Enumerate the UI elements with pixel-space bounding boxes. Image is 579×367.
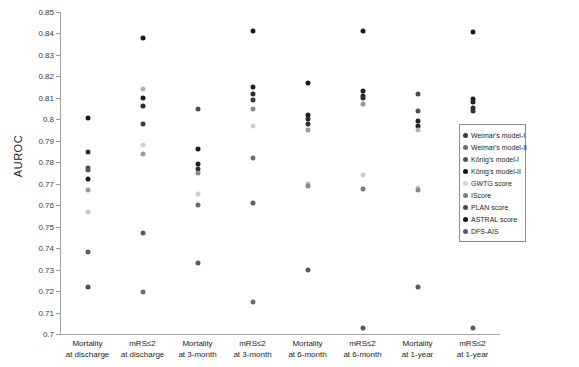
y-tick-mark bbox=[56, 291, 60, 292]
legend-marker-icon bbox=[463, 169, 468, 174]
data-point bbox=[195, 192, 200, 197]
legend-marker-icon bbox=[463, 229, 468, 234]
y-tick-label: 0.81 bbox=[24, 93, 54, 102]
data-point bbox=[85, 116, 90, 121]
legend-label: Weimar's model-I bbox=[471, 131, 525, 140]
data-point bbox=[305, 267, 310, 272]
y-tick-mark bbox=[56, 184, 60, 185]
data-point bbox=[250, 201, 255, 206]
data-point bbox=[415, 188, 420, 193]
data-point bbox=[360, 102, 365, 107]
y-tick-label: 0.77 bbox=[24, 179, 54, 188]
data-point bbox=[305, 121, 310, 126]
data-point bbox=[195, 261, 200, 266]
data-point bbox=[140, 35, 145, 40]
legend-label: PLAN score bbox=[471, 203, 508, 212]
legend-label: König's model-I bbox=[471, 155, 519, 164]
legend-marker-icon bbox=[463, 205, 468, 210]
y-tick-mark bbox=[56, 141, 60, 142]
x-tick-label: mRS≤2at 1-year bbox=[433, 338, 513, 360]
data-point bbox=[470, 325, 475, 330]
y-tick-label: 0.8 bbox=[24, 115, 54, 124]
data-point bbox=[415, 128, 420, 133]
x-axis-tick-labels: Mortalityat dischargemRS≤2at dischargeMo… bbox=[60, 338, 500, 366]
data-point bbox=[470, 108, 475, 113]
y-tick-mark bbox=[56, 55, 60, 56]
data-point bbox=[85, 149, 90, 154]
y-tick-label: 0.75 bbox=[24, 222, 54, 231]
y-tick-mark bbox=[56, 119, 60, 120]
x-tick-label-line: at 1-year bbox=[433, 349, 513, 360]
legend-item[interactable]: König's model-II bbox=[463, 165, 522, 177]
y-tick-mark bbox=[56, 227, 60, 228]
data-point bbox=[140, 290, 145, 295]
legend-item[interactable]: GWTG score bbox=[463, 177, 522, 189]
data-point bbox=[85, 284, 90, 289]
legend-marker-icon bbox=[463, 181, 468, 186]
y-tick-label: 0.84 bbox=[24, 29, 54, 38]
plot-area bbox=[60, 12, 434, 334]
data-point bbox=[195, 203, 200, 208]
data-point bbox=[470, 100, 475, 105]
legend-label: GWTG score bbox=[471, 179, 512, 188]
data-point bbox=[360, 173, 365, 178]
data-point bbox=[140, 104, 145, 109]
data-point bbox=[470, 30, 475, 35]
legend-item[interactable]: DFS-AIS bbox=[463, 225, 522, 237]
data-point bbox=[250, 123, 255, 128]
data-point bbox=[250, 29, 255, 34]
data-point bbox=[85, 167, 90, 172]
y-tick-mark bbox=[56, 270, 60, 271]
data-point bbox=[305, 183, 310, 188]
legend-label: König's model-II bbox=[471, 167, 521, 176]
legend-item[interactable]: Weimar's model-II bbox=[463, 141, 522, 153]
data-point bbox=[305, 80, 310, 85]
data-point bbox=[250, 91, 255, 96]
data-point bbox=[250, 85, 255, 90]
legend-item[interactable]: König's model-I bbox=[463, 153, 522, 165]
y-tick-label: 0.82 bbox=[24, 72, 54, 81]
data-point bbox=[250, 106, 255, 111]
legend-marker-icon bbox=[463, 133, 468, 138]
data-point bbox=[195, 106, 200, 111]
legend-item[interactable]: ASTRAL score bbox=[463, 213, 522, 225]
data-point bbox=[140, 87, 145, 92]
y-tick-label: 0.71 bbox=[24, 308, 54, 317]
y-tick-mark bbox=[56, 98, 60, 99]
y-tick-mark bbox=[56, 33, 60, 34]
data-point bbox=[415, 284, 420, 289]
data-point bbox=[85, 250, 90, 255]
data-point bbox=[305, 128, 310, 133]
y-tick-mark bbox=[56, 313, 60, 314]
legend-item[interactable]: PLAN score bbox=[463, 201, 522, 213]
data-point bbox=[195, 147, 200, 152]
legend-item[interactable]: IScore bbox=[463, 189, 522, 201]
data-point bbox=[85, 209, 90, 214]
legend-marker-icon bbox=[463, 157, 468, 162]
data-point bbox=[360, 95, 365, 100]
y-tick-mark bbox=[56, 248, 60, 249]
y-tick-label: 0.76 bbox=[24, 201, 54, 210]
data-point bbox=[85, 188, 90, 193]
data-point bbox=[85, 177, 90, 182]
data-point bbox=[250, 98, 255, 103]
data-point bbox=[360, 29, 365, 34]
data-point bbox=[140, 151, 145, 156]
legend: Weimar's model-IWeimar's model-IIKönig's… bbox=[459, 124, 526, 242]
y-tick-mark bbox=[56, 162, 60, 163]
legend-label: IScore bbox=[471, 191, 491, 200]
y-tick-mark bbox=[56, 334, 60, 335]
legend-marker-icon bbox=[463, 217, 468, 222]
y-tick-mark bbox=[56, 205, 60, 206]
legend-item[interactable]: Weimar's model-I bbox=[463, 129, 522, 141]
y-tick-mark bbox=[56, 76, 60, 77]
y-tick-label: 0.72 bbox=[24, 287, 54, 296]
data-point bbox=[140, 95, 145, 100]
y-tick-label: 0.83 bbox=[24, 50, 54, 59]
legend-marker-icon bbox=[463, 145, 468, 150]
data-point bbox=[415, 108, 420, 113]
x-axis-line bbox=[60, 334, 500, 335]
data-point bbox=[195, 171, 200, 176]
y-axis-tick-labels: 0.850.840.830.820.810.80.790.780.770.760… bbox=[22, 0, 54, 367]
data-point bbox=[250, 299, 255, 304]
